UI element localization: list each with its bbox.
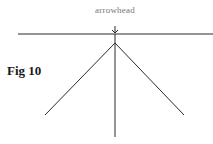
- left-branch-line: [45, 43, 115, 115]
- down-arrow-icon: [112, 26, 118, 33]
- right-branch-line: [115, 43, 184, 115]
- figure-label: Fig 10: [7, 63, 41, 79]
